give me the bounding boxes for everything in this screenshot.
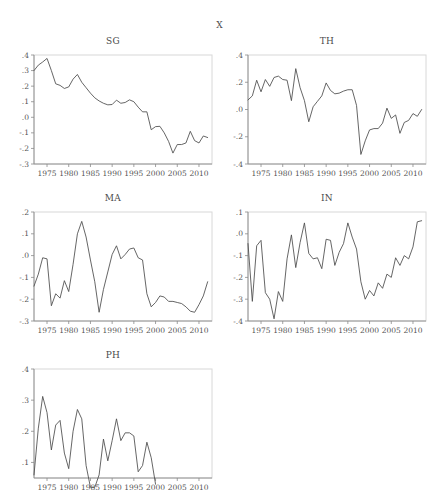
svg-text:-.1: -.1 [19,128,29,137]
svg-text:1995: 1995 [338,169,357,178]
svg-text:2000: 2000 [360,326,379,335]
svg-text:.4: .4 [22,365,29,374]
panel-in: IN .1.0-.1-.2-.3-.4197519801985199019952… [222,193,432,343]
svg-text:2010: 2010 [403,169,422,178]
svg-text:1975: 1975 [37,483,56,492]
svg-text:-.1: -.1 [19,273,29,282]
plot-svg-ph: .4.3.2.119751980198519901995200020052010 [8,364,218,494]
svg-text:-.1: -.1 [233,251,243,260]
svg-text:-.4: -.4 [233,160,243,169]
svg-text:-.3: -.3 [19,317,29,326]
svg-text:2010: 2010 [403,326,422,335]
svg-text:1985: 1985 [295,326,314,335]
svg-text:2010: 2010 [189,326,208,335]
panel-title-in: IN [222,193,432,203]
plot-ph: .4.3.2.119751980198519901995200020052010 [8,364,218,494]
svg-text:.0: .0 [236,105,243,114]
svg-text:.1: .1 [22,97,29,106]
panel-ma: MA .2.1.0-.1-.2-.31975198019851990199520… [8,193,218,343]
svg-text:1980: 1980 [59,326,78,335]
svg-text:.0: .0 [236,229,243,238]
svg-text:.1: .1 [22,229,29,238]
panel-title-th: TH [222,36,432,46]
svg-text:1975: 1975 [37,169,56,178]
svg-text:.0: .0 [22,113,29,122]
svg-text:1980: 1980 [59,483,78,492]
panel-title-ph: PH [8,350,218,360]
svg-text:1990: 1990 [103,483,122,492]
plot-svg-in: .1.0-.1-.2-.3-.4197519801985199019952000… [222,207,432,343]
svg-text:1975: 1975 [251,169,270,178]
svg-text:-.3: -.3 [233,295,243,304]
svg-text:2005: 2005 [382,326,401,335]
svg-text:1975: 1975 [251,326,270,335]
svg-text:1985: 1985 [81,169,100,178]
figure-overall-title: X [0,20,439,30]
svg-text:.3: .3 [22,66,29,75]
plot-svg-sg: .4.3.2.1.0-.1-.2-.3197519801985199019952… [8,50,218,186]
svg-text:1990: 1990 [103,169,122,178]
svg-text:1975: 1975 [37,326,56,335]
svg-text:2010: 2010 [189,169,208,178]
svg-text:.1: .1 [22,458,29,467]
svg-text:1980: 1980 [59,169,78,178]
panel-title-ma: MA [8,193,218,203]
svg-text:.4: .4 [236,51,243,60]
svg-text:.0: .0 [22,251,29,260]
svg-text:.2: .2 [22,82,29,91]
svg-text:1990: 1990 [103,326,122,335]
svg-text:1980: 1980 [273,326,292,335]
svg-text:.1: .1 [236,208,243,217]
plot-th: .4.2.0-.2-.41975198019851990199520002005… [222,50,432,186]
svg-text:-.3: -.3 [19,160,29,169]
svg-text:-.2: -.2 [19,295,29,304]
plot-svg-ma: .2.1.0-.1-.2-.31975198019851990199520002… [8,207,218,343]
svg-text:-.2: -.2 [233,132,243,141]
svg-text:.2: .2 [236,78,243,87]
svg-text:1995: 1995 [124,169,143,178]
svg-text:2010: 2010 [189,483,208,492]
svg-text:-.2: -.2 [19,144,29,153]
svg-text:1985: 1985 [81,326,100,335]
svg-text:2000: 2000 [146,326,165,335]
svg-text:.4: .4 [22,51,29,60]
svg-text:.3: .3 [22,396,29,405]
svg-text:1995: 1995 [338,326,357,335]
svg-text:2005: 2005 [382,169,401,178]
plot-sg: .4.3.2.1.0-.1-.2-.3197519801985199019952… [8,50,218,186]
svg-text:.2: .2 [22,208,29,217]
panel-ph: PH .4.3.2.119751980198519901995200020052… [8,350,218,494]
svg-text:1985: 1985 [295,169,314,178]
svg-text:2000: 2000 [146,169,165,178]
svg-text:2005: 2005 [168,169,187,178]
svg-text:2005: 2005 [168,326,187,335]
svg-text:2005: 2005 [168,483,187,492]
plot-svg-th: .4.2.0-.2-.41975198019851990199520002005… [222,50,432,186]
svg-text:1990: 1990 [317,169,336,178]
svg-text:1995: 1995 [124,326,143,335]
svg-text:-.4: -.4 [233,317,243,326]
svg-text:2000: 2000 [360,169,379,178]
svg-text:.2: .2 [22,427,29,436]
panel-sg: SG .4.3.2.1.0-.1-.2-.3197519801985199019… [8,36,218,186]
svg-text:1980: 1980 [273,169,292,178]
plot-in: .1.0-.1-.2-.3-.4197519801985199019952000… [222,207,432,343]
panel-th: TH .4.2.0-.2-.41975198019851990199520002… [222,36,432,186]
panel-title-sg: SG [8,36,218,46]
svg-text:1995: 1995 [124,483,143,492]
svg-text:-.2: -.2 [233,273,243,282]
plot-ma: .2.1.0-.1-.2-.31975198019851990199520002… [8,207,218,343]
svg-text:1990: 1990 [317,326,336,335]
